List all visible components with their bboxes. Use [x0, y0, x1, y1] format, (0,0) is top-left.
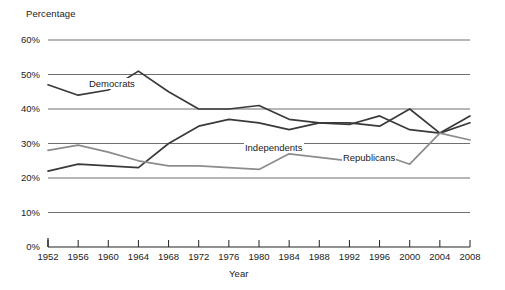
series-label-democrats: Democrats — [88, 78, 136, 89]
gridlines — [48, 40, 470, 213]
series-line-independents — [48, 109, 470, 171]
series-label-independents: Independents — [244, 142, 304, 153]
series-label-republicans: Republicans — [342, 152, 396, 163]
x-axis — [48, 238, 470, 247]
line-chart: Percentage Year 0%10%20%30%40%50%60% 195… — [0, 0, 505, 290]
